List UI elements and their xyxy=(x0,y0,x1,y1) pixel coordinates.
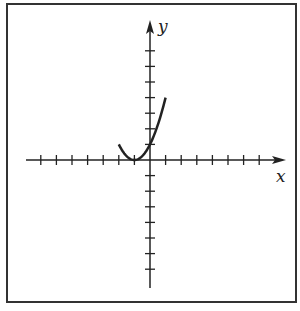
parabola-curve xyxy=(119,98,166,160)
x-axis-label: x xyxy=(276,166,286,186)
axes xyxy=(26,20,286,288)
y-axis-label: y xyxy=(157,16,168,36)
coordinate-plane: y x xyxy=(0,0,300,311)
